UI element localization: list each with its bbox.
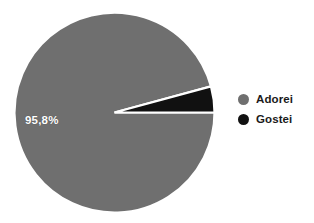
legend-item-adorei[interactable]: Adorei bbox=[238, 90, 314, 109]
legend-label-adorei: Adorei bbox=[256, 94, 293, 106]
pie-plot-area: 95,8% bbox=[0, 0, 232, 223]
legend-label-gostei: Gostei bbox=[256, 114, 292, 126]
slice-data-label-adorei: 95,8% bbox=[25, 114, 59, 126]
circle-swatch-icon bbox=[238, 114, 249, 125]
pie-chart-figure: 95,8% Adorei Gostei bbox=[0, 0, 314, 223]
chart-legend: Adorei Gostei bbox=[238, 90, 314, 130]
pie-svg bbox=[0, 0, 232, 223]
legend-item-gostei[interactable]: Gostei bbox=[238, 110, 314, 129]
circle-swatch-icon bbox=[238, 94, 249, 105]
